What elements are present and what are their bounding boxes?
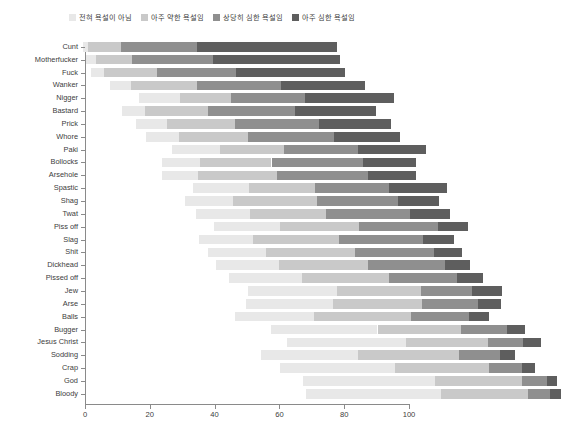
- y-axis-tick: [81, 124, 85, 125]
- bar-segment: [500, 350, 515, 360]
- y-axis-tick: [81, 201, 85, 202]
- bar-segment: [179, 132, 248, 142]
- bar-segment: [208, 106, 294, 116]
- bar-row: [86, 68, 410, 78]
- y-axis-tick: [81, 240, 85, 241]
- bar-segment: [389, 273, 458, 283]
- bar-segment: [180, 93, 231, 103]
- bar-segment: [337, 286, 421, 296]
- bar-segment: [368, 260, 444, 270]
- bar-segment: [146, 132, 179, 142]
- bar-segment: [96, 55, 132, 65]
- bar-segment: [88, 42, 121, 52]
- bar-segment: [317, 196, 398, 206]
- bar-segment: [235, 119, 319, 129]
- legend-swatch-icon: [292, 14, 299, 21]
- bar-segment: [86, 55, 96, 65]
- y-axis-tick: [81, 330, 85, 331]
- y-axis-label: Sodding: [0, 351, 78, 358]
- bar-row: [86, 42, 410, 52]
- bar-segment: [172, 145, 220, 155]
- bar-segment: [522, 363, 535, 373]
- y-axis-tick: [81, 98, 85, 99]
- bar-row: [86, 81, 410, 91]
- y-axis-label: Dickhead: [0, 261, 78, 268]
- bar-segment: [302, 273, 388, 283]
- x-axis-tick: [150, 405, 151, 409]
- bar-row: [86, 350, 410, 360]
- legend-item: 전혀 욕설이 아님: [69, 14, 132, 21]
- bar-segment: [220, 145, 284, 155]
- y-axis-tick: [81, 73, 85, 74]
- bar-segment: [389, 183, 447, 193]
- y-axis-label: Motherfucker: [0, 56, 78, 63]
- bar-row: [86, 196, 410, 206]
- bar-segment: [435, 376, 521, 386]
- y-axis-label: Fuck: [0, 69, 78, 76]
- bar-segment: [406, 338, 487, 348]
- y-axis-label: Bastard: [0, 107, 78, 114]
- bar-segment: [229, 273, 303, 283]
- x-axis-label: 0: [83, 411, 87, 419]
- bar-segment: [121, 42, 197, 52]
- x-axis-label: 40: [210, 411, 218, 419]
- bar-segment: [213, 55, 340, 65]
- bar-segment: [272, 158, 364, 168]
- bar-segment: [295, 106, 376, 116]
- bar-segment: [208, 248, 266, 258]
- legend-item-label: 전혀 욕설이 아님: [79, 14, 132, 21]
- y-axis-tick: [81, 394, 85, 395]
- y-axis-label: Balls: [0, 313, 78, 320]
- legend-swatch-icon: [213, 14, 220, 21]
- y-axis-tick: [81, 175, 85, 176]
- bar-segment: [461, 325, 507, 335]
- y-axis-label: Spastic: [0, 184, 78, 191]
- bar-row: [86, 376, 410, 386]
- y-axis-label: Nigger: [0, 94, 78, 101]
- bar-segment: [507, 325, 525, 335]
- bar-segment: [306, 389, 441, 399]
- bar-row: [86, 209, 410, 219]
- bar-segment: [104, 68, 157, 78]
- bar-row: [86, 273, 410, 283]
- bar-segment: [522, 376, 547, 386]
- y-axis-label: Pissed off: [0, 274, 78, 281]
- bar-segment: [438, 222, 469, 232]
- bar-row: [86, 286, 410, 296]
- y-axis-label: God: [0, 377, 78, 384]
- bar-segment: [303, 376, 435, 386]
- x-axis-tick: [344, 405, 345, 409]
- bar-segment: [469, 312, 489, 322]
- x-axis-tick: [279, 405, 280, 409]
- x-axis-label: 20: [146, 411, 154, 419]
- bar-segment: [231, 93, 305, 103]
- y-axis-label: Bugger: [0, 326, 78, 333]
- bar-segment: [326, 209, 410, 219]
- y-axis-tick: [81, 111, 85, 112]
- y-axis-tick: [81, 85, 85, 86]
- y-axis-tick: [81, 227, 85, 228]
- bar-segment: [550, 389, 560, 399]
- y-axis-labels: CuntMotherfuckerFuckWankerNiggerBastardP…: [0, 0, 78, 436]
- y-axis-label: Twat: [0, 210, 78, 217]
- y-axis-label: Bollocks: [0, 158, 78, 165]
- y-axis-label: Bloody: [0, 390, 78, 397]
- bar-segment: [280, 363, 394, 373]
- bar-row: [86, 312, 410, 322]
- bar-segment: [368, 171, 416, 181]
- y-axis-tick: [81, 265, 85, 266]
- bar-segment: [197, 42, 337, 52]
- legend-item: 아주 심한 욕설임: [292, 14, 355, 21]
- bar-segment: [334, 132, 400, 142]
- y-axis-label: Wanker: [0, 81, 78, 88]
- bar-segment: [358, 145, 427, 155]
- bar-segment: [395, 363, 489, 373]
- y-axis-label: Shag: [0, 197, 78, 204]
- bar-segment: [253, 235, 339, 245]
- legend-item-label: 상당히 심한 욕설임: [223, 14, 283, 21]
- bar-segment: [314, 312, 411, 322]
- bar-row: [86, 235, 410, 245]
- bar-row: [86, 389, 410, 399]
- bar-segment: [277, 171, 369, 181]
- bar-row: [86, 119, 410, 129]
